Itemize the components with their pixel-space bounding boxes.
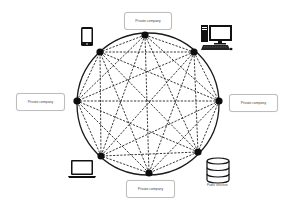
connection-edge — [100, 52, 101, 156]
network-node — [141, 31, 148, 38]
private-company-label-right: Private company — [229, 94, 278, 112]
private-company-label-left: Private company — [16, 93, 65, 111]
network-node — [96, 48, 103, 55]
network-node — [194, 148, 201, 155]
connection-edge — [77, 52, 194, 101]
connection-edge — [194, 52, 198, 152]
private-company-label-bottom: Private company — [126, 180, 175, 198]
connection-edge — [101, 152, 198, 156]
connection-edge — [194, 52, 219, 101]
database-icon — [207, 158, 229, 183]
connection-edge — [101, 35, 145, 156]
network-node — [73, 97, 80, 104]
connection-edge — [149, 52, 194, 173]
connection-edge — [145, 35, 194, 52]
connection-edge — [100, 52, 219, 101]
network-node — [190, 48, 197, 55]
network-node — [97, 152, 104, 159]
private-company-label-top: Private company — [124, 12, 172, 30]
network-node — [145, 169, 152, 176]
desktop-computer-icon — [201, 25, 233, 50]
connection-edge — [101, 101, 219, 156]
smartphone-icon — [81, 27, 93, 46]
connection-edge — [101, 52, 194, 156]
database-caption: Public structure — [207, 183, 228, 187]
network-node — [215, 97, 222, 104]
connection-edge — [77, 52, 100, 101]
connection-edge — [145, 35, 198, 152]
connection-edge — [100, 52, 198, 152]
connection-edge — [101, 156, 149, 173]
laptop-icon — [68, 160, 96, 178]
